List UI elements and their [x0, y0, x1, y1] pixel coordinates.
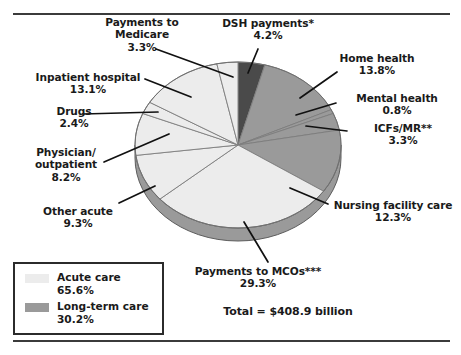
- legend: Acute care 65.6% Long-term care 30.2%: [13, 262, 164, 335]
- chart-total-label: Total = $408.9 billion: [198, 306, 378, 318]
- callout-label-line1: Drugs: [57, 105, 92, 117]
- legend-percent: 65.6%: [57, 284, 94, 296]
- callout-label-line2: outpatient: [35, 158, 97, 170]
- legend-item-acute-care[interactable]: Acute care 65.6%: [25, 271, 121, 296]
- callout-label-line1: Nursing facility care: [334, 199, 453, 211]
- callout-percent: 13.1%: [16, 83, 160, 95]
- callout-percent: 2.4%: [26, 117, 122, 129]
- callout-percent: 13.8%: [322, 64, 432, 76]
- callout-mental-health: Mental health 0.8%: [340, 92, 454, 117]
- callout-payments-to-medicare: Payments to Medicare 3.3%: [84, 16, 200, 53]
- callout-label-line2: Medicare: [115, 28, 169, 40]
- pie-chart-figure: Payments to Medicare 3.3% DSH payments* …: [0, 0, 461, 355]
- callout-percent: 9.3%: [27, 217, 129, 229]
- callout-label-line1: ICFs/MR**: [374, 122, 432, 134]
- callout-percent: 8.2%: [10, 171, 122, 183]
- callout-label-line1: Payments to: [105, 16, 178, 28]
- callout-percent: 29.3%: [173, 277, 343, 289]
- legend-percent: 30.2%: [57, 313, 94, 325]
- callout-icfs-mr: ICFs/MR** 3.3%: [352, 122, 454, 147]
- callout-drugs: Drugs 2.4%: [26, 105, 122, 130]
- callout-home-health: Home health 13.8%: [322, 52, 432, 77]
- legend-swatch-long-term-care: [25, 303, 49, 312]
- callout-label-line1: Payments to MCOs***: [195, 265, 321, 277]
- callout-physician-outpatient: Physician/ outpatient 8.2%: [10, 146, 122, 183]
- callout-percent: 12.3%: [330, 211, 456, 223]
- legend-text-acute-care: Acute care 65.6%: [57, 271, 121, 296]
- callout-label-line1: Home health: [339, 52, 414, 64]
- callout-percent: 3.3%: [352, 134, 454, 146]
- callout-label-line1: Mental health: [356, 92, 438, 104]
- callout-label-line1: Physician/: [36, 146, 96, 158]
- callout-nursing-facility-care: Nursing facility care 12.3%: [330, 199, 456, 224]
- callout-percent: 4.2%: [212, 29, 324, 41]
- callout-percent: 3.3%: [84, 41, 200, 53]
- legend-swatch-acute-care: [25, 274, 49, 283]
- callout-dsh-payments: DSH payments* 4.2%: [212, 17, 324, 42]
- callout-other-acute: Other acute 9.3%: [27, 205, 129, 230]
- legend-label: Acute care: [57, 271, 121, 283]
- legend-text-long-term-care: Long-term care 30.2%: [57, 300, 149, 325]
- callout-percent: 0.8%: [340, 104, 454, 116]
- legend-item-long-term-care[interactable]: Long-term care 30.2%: [25, 300, 149, 325]
- callout-label-line1: Inpatient hospital: [36, 71, 141, 83]
- callout-inpatient-hospital: Inpatient hospital 13.1%: [16, 71, 160, 96]
- callout-label-line1: Other acute: [43, 205, 113, 217]
- legend-label: Long-term care: [57, 300, 149, 312]
- callout-label-line1: DSH payments*: [222, 17, 314, 29]
- callout-payments-to-mcos: Payments to MCOs*** 29.3%: [173, 265, 343, 290]
